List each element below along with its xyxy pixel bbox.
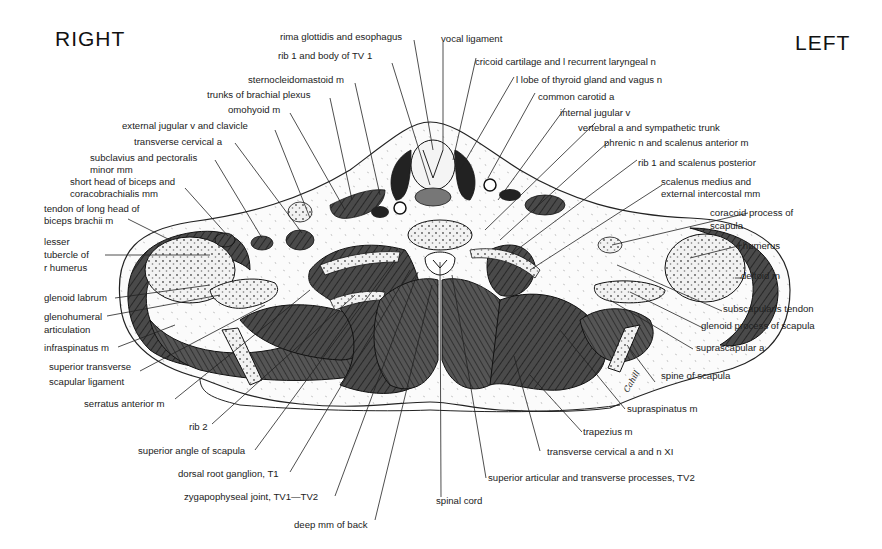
label-glenohumeral-2: articulation [44, 324, 90, 336]
label-coracoid-2: scapula [710, 220, 743, 232]
label-common-carotid: common carotid a [538, 91, 614, 103]
label-serratus-anterior: serratus anterior m [84, 398, 165, 410]
left-coracoid [598, 237, 622, 253]
label-rib2: rib 2 [189, 421, 208, 433]
label-glenoid-process: glenoid process of scapula [701, 320, 815, 332]
label-supraspinatus: supraspinatus m [627, 403, 697, 415]
label-sup-transverse-1: superior transverse [49, 361, 131, 373]
label-subscapularis-tendon: subscapularis tendon [723, 303, 814, 315]
right-jugular [371, 206, 389, 218]
label-cricoid: cricoid cartilage and l recurrent laryng… [475, 56, 656, 68]
label-transverse-cervical-xi: transverse cervical a and n XI [547, 446, 673, 458]
label-scalenus-medius-2: external intercostal mm [661, 188, 760, 200]
label-scalenus-medius-1: scalenus medius and [661, 176, 751, 188]
label-sup-transverse-2: scapular ligament [49, 376, 124, 388]
label-coracoid-1: coracoid process of [710, 207, 793, 219]
label-short-head-2: coracobrachialis mm [70, 188, 158, 200]
label-dorsal-root: dorsal root ganglion, T1 [178, 468, 279, 480]
label-zygapophyseal: zygapophyseal joint, TV1—TV2 [184, 491, 318, 503]
right-coracobrachialis [215, 233, 235, 247]
esophagus [415, 188, 451, 206]
label-trapezius: trapezius m [583, 426, 633, 438]
label-spine-scapula: spine of scapula [661, 370, 730, 382]
label-glenohumeral-1: glenohumeral [44, 311, 102, 323]
label-internal-jugular: internal jugular v [560, 107, 630, 119]
label-lesser-tubercle-3: r humerus [44, 262, 87, 274]
label-transverse-cervical-a: transverse cervical a [134, 136, 222, 148]
label-sternocleidomastoid: sternocleidomastoid m [248, 74, 344, 86]
label-lesser-tubercle-1: lesser [44, 236, 70, 248]
label-vocal-ligament: vocal ligament [441, 33, 502, 45]
label-deltoid: deltoid m [741, 270, 780, 282]
label-deep-mm: deep mm of back [294, 519, 368, 531]
label-l-humerus: l humerus [738, 240, 780, 252]
label-rib1-tv1: rib 1 and body of TV 1 [278, 50, 372, 62]
right-pectoralis [251, 236, 273, 250]
label-superior-articular: superior articular and transverse proces… [488, 472, 695, 484]
right-scm-2 [286, 230, 314, 250]
label-subclavius-1: subclavius and pectoralis [90, 152, 197, 164]
label-tendon-long-head-1: tendon of long head of [44, 203, 140, 215]
label-rima-glottidis: rima glottidis and esophagus [280, 31, 402, 43]
label-omohyoid: omohyoid m [228, 104, 280, 116]
label-tendon-long-head-2: biceps brachii m [44, 215, 113, 227]
label-subclavius-2: minor mm [90, 164, 133, 176]
vertebral-body-tv1 [408, 220, 472, 250]
label-external-jugular: external jugular v and clavicle [122, 120, 248, 132]
label-infraspinatus: infraspinatus m [44, 342, 109, 354]
label-trunks-brachial-plexus: trunks of brachial plexus [207, 89, 310, 101]
label-suprascapular-a: suprascapular a [696, 342, 764, 354]
label-rib1-scalenus-posterior: rib 1 and scalenus posterior [638, 157, 756, 169]
label-glenoid-labrum: glenoid labrum [44, 292, 107, 304]
left-humerus-head [665, 234, 745, 302]
label-short-head-1: short head of biceps and [70, 176, 175, 188]
right-carotid [394, 202, 406, 214]
left-carotid [484, 179, 496, 191]
label-vertebral-a: vertebral a and sympathetic trunk [578, 122, 720, 134]
left-jugular [499, 189, 521, 201]
label-lesser-tubercle-2: tubercle of [44, 249, 89, 261]
label-superior-angle: superior angle of scapula [138, 445, 245, 457]
label-l-lobe-thyroid: l lobe of thyroid gland and vagus n [516, 74, 662, 86]
larynx [411, 140, 455, 190]
label-spinal-cord: spinal cord [436, 495, 482, 507]
label-phrenic: phrenic n and scalenus anterior m [604, 137, 749, 149]
